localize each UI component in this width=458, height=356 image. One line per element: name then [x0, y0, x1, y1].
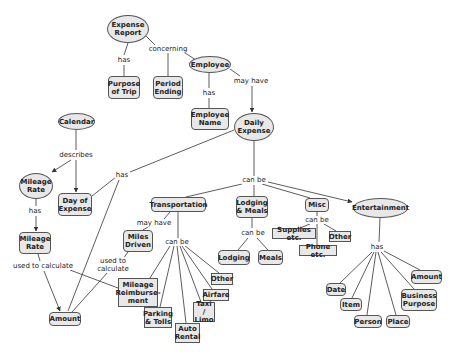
- concept-node-amount-left[interactable]: Amount: [49, 312, 81, 326]
- concept-node-expense-report[interactable]: Expense Report: [107, 15, 149, 43]
- link-label-lbl-describes: describes: [58, 151, 93, 159]
- concept-node-employee[interactable]: Employee: [189, 56, 231, 73]
- link-label-lbl-has-3: has: [115, 171, 129, 179]
- line-connector: [367, 252, 376, 315]
- concept-node-other-transport[interactable]: Other: [211, 273, 233, 285]
- link-label-lbl-used-to-calc-2: used to calculate: [96, 257, 130, 273]
- link-label-lbl-can-be-2: can be: [164, 238, 190, 246]
- line-connector: [146, 36, 155, 45]
- line-connector: [184, 245, 219, 273]
- line-connector: [186, 184, 242, 197]
- link-label-lbl-has-1: has: [117, 56, 131, 64]
- concept-node-entertainment[interactable]: Entertainment: [353, 198, 408, 218]
- arrow-connector: [52, 160, 71, 172]
- concept-node-calendar[interactable]: Calendar: [58, 113, 95, 130]
- concept-node-meals[interactable]: Meals: [258, 250, 283, 265]
- concept-node-place[interactable]: Place: [386, 315, 410, 328]
- line-connector: [230, 69, 240, 76]
- link-label-lbl-has-4: has: [28, 207, 42, 215]
- line-connector: [150, 246, 170, 278]
- concept-node-auto-rental[interactable]: Auto Rental: [175, 323, 200, 343]
- concept-node-mileage-reimbursement[interactable]: Mileage Reimburse- ment: [118, 278, 158, 307]
- concept-node-other-misc[interactable]: Other: [329, 231, 351, 242]
- line-connector: [381, 252, 414, 289]
- line-connector: [180, 246, 201, 302]
- link-label-lbl-may-have-1: may have: [233, 77, 270, 85]
- concept-node-lodging[interactable]: Lodging: [218, 250, 250, 265]
- concept-node-misc[interactable]: Misc: [305, 198, 329, 212]
- concept-node-purpose-of-trip[interactable]: Purpose of Trip: [108, 76, 140, 99]
- concept-node-date[interactable]: Date: [326, 283, 346, 296]
- concept-node-transportation[interactable]: Transportation: [151, 197, 206, 212]
- concept-node-lodging-meals[interactable]: Lodging & Meals: [236, 196, 268, 218]
- link-label-lbl-has-2: has: [202, 89, 216, 97]
- concept-node-supplies[interactable]: Supplies etc.: [272, 228, 316, 239]
- concept-node-mileage-rate-box[interactable]: Mileage Rate: [19, 232, 51, 254]
- concept-node-employee-name[interactable]: Employee Name: [191, 108, 229, 130]
- concept-node-amount-right[interactable]: Amount: [411, 270, 442, 284]
- line-connector: [164, 212, 170, 219]
- concept-node-daily-expense[interactable]: Daily Expense: [234, 113, 274, 141]
- link-label-lbl-used-to-calc-1: used to calculate: [12, 262, 74, 270]
- link-label-lbl-may-have-2: may have: [136, 219, 173, 227]
- line-connector: [160, 246, 174, 307]
- concept-node-phone[interactable]: Phone etc.: [299, 245, 337, 256]
- line-connector: [92, 177, 116, 196]
- line-connector: [238, 238, 248, 250]
- concept-node-period-ending[interactable]: Period Ending: [153, 76, 183, 99]
- link-label-lbl-can-be-4: can be: [304, 216, 330, 224]
- link-label-lbl-can-be-3: can be: [240, 229, 266, 237]
- line-connector: [130, 130, 234, 172]
- line-connector: [38, 254, 40, 261]
- concept-node-parking-tolls[interactable]: Parking & Tolls: [144, 307, 172, 328]
- line-connector: [379, 218, 380, 242]
- concept-node-business-purpose[interactable]: Business Purpose: [401, 289, 437, 311]
- line-connector: [124, 43, 128, 55]
- concept-node-day-of-expense[interactable]: Day of Expense: [58, 193, 92, 216]
- link-label-lbl-has-5: has: [370, 243, 384, 251]
- concept-node-person[interactable]: Person: [354, 315, 382, 328]
- concept-node-taxi-limo[interactable]: Taxi / Limo: [193, 302, 215, 322]
- concept-node-item[interactable]: Item: [340, 298, 362, 311]
- line-connector: [182, 246, 212, 289]
- line-connector: [378, 252, 396, 315]
- line-connector: [340, 252, 372, 283]
- line-connector: [324, 224, 336, 231]
- concept-node-airfare[interactable]: Airfare: [203, 289, 229, 301]
- arrow-connector: [44, 271, 60, 311]
- line-connector: [72, 272, 108, 312]
- connector-lines: [0, 0, 458, 356]
- concept-node-miles-driven[interactable]: Miles Driven: [123, 230, 153, 252]
- concept-node-mileage-rate-oval[interactable]: Mileage Rate: [19, 173, 53, 199]
- link-label-lbl-concerning: concerning: [148, 45, 189, 53]
- line-connector: [257, 238, 268, 250]
- line-connector: [384, 251, 420, 270]
- concept-map-canvas: Expense ReportPurpose of TripPeriod Endi…: [0, 0, 458, 356]
- link-label-lbl-can-be-1: can be: [241, 176, 267, 184]
